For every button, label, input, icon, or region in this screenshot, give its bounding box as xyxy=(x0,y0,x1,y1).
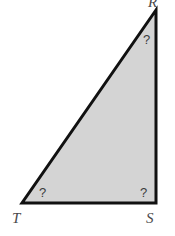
vertex-label-t: T xyxy=(12,211,20,226)
angle-mark-r: ? xyxy=(143,33,150,46)
vertex-label-r: R xyxy=(148,0,157,10)
angle-mark-t: ? xyxy=(39,186,46,199)
angle-mark-s: ? xyxy=(140,186,147,199)
triangle-polygon xyxy=(22,10,156,203)
triangle-figure: R T S ? ? ? xyxy=(0,0,175,236)
vertex-label-s: S xyxy=(146,211,154,226)
